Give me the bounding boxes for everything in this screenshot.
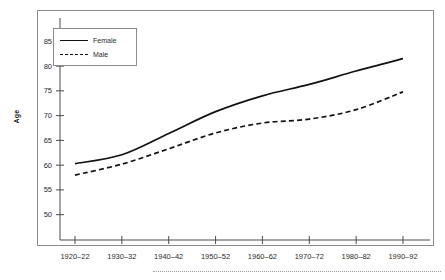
- legend-swatch-female-solid-line: [60, 40, 88, 41]
- legend: Female Male: [53, 28, 137, 66]
- life-expectancy-line-chart: Age 5055606570758085 1920–221930–321940–…: [0, 0, 445, 280]
- series-line-male: [75, 92, 403, 175]
- legend-item-female: Female: [60, 36, 132, 46]
- legend-item-male: Male: [60, 50, 132, 60]
- data-series-group: [75, 59, 403, 175]
- footer-dotted-rule: [153, 271, 441, 272]
- legend-label-male: Male: [93, 50, 108, 60]
- legend-label-female: Female: [93, 36, 116, 46]
- legend-swatch-male-dashed-line: [60, 54, 88, 55]
